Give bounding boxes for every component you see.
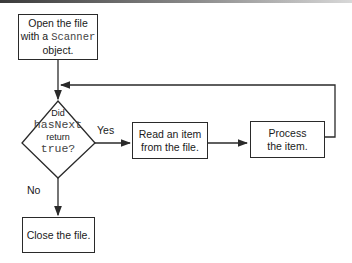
open-line2-code: Scanner xyxy=(51,31,95,43)
decision-line4-code: true? xyxy=(28,143,88,155)
no-label: No xyxy=(27,184,40,196)
read-line1: Read an item xyxy=(139,128,201,141)
close-file-node: Close the file. xyxy=(22,217,95,253)
open-file-node: Open the file with a Scanner object. xyxy=(18,14,98,60)
process-line2: the item. xyxy=(267,140,307,153)
open-line2-prefix: with a xyxy=(21,30,51,42)
read-line2: from the file. xyxy=(139,141,201,154)
close-line1: Close the file. xyxy=(27,229,91,242)
open-line1: Open the file xyxy=(21,17,95,30)
read-item-node: Read an item from the file. xyxy=(132,122,208,159)
process-item-node: Process the item. xyxy=(250,121,325,158)
yes-label: Yes xyxy=(97,124,114,136)
decision-text: Did hasNext return true? xyxy=(28,107,88,155)
process-line1: Process xyxy=(267,127,307,140)
open-line3: object. xyxy=(21,44,95,57)
decision-line2-code: hasNext xyxy=(28,119,88,131)
